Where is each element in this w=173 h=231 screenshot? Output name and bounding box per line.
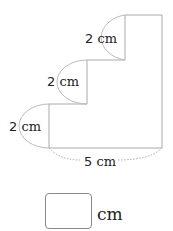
middle-step-label: 2 cm [47,75,79,88]
base-label: 5 cm [84,155,116,168]
answer-unit-label: cm [97,204,123,224]
top-step-label: 2 cm [85,32,117,45]
bottom-step-label: 2 cm [9,120,41,133]
answer-input-box[interactable] [45,193,92,229]
